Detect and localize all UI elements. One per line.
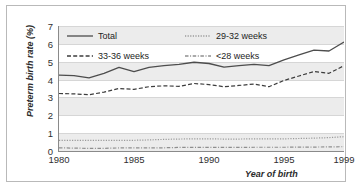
x-tick-label: 1995 <box>264 154 304 165</box>
legend-line-swatch <box>67 31 93 41</box>
series-line <box>59 147 344 149</box>
series-line <box>59 137 344 141</box>
legend-line-swatch <box>185 51 211 61</box>
y-tick-label: 6 <box>37 39 53 50</box>
legend-line-swatch <box>185 31 211 41</box>
legend-label: 33-36 weeks <box>98 51 149 61</box>
y-axis-line <box>58 26 59 152</box>
y-tick-label: 3 <box>37 92 53 103</box>
y-tick-label: 7 <box>37 21 53 32</box>
legend-item[interactable]: <28 weeks <box>185 50 259 62</box>
y-tick-label: 5 <box>37 57 53 68</box>
x-axis-line <box>58 151 344 152</box>
y-axis-title: Preterm birth rate (%) <box>25 11 35 131</box>
chart-frame: 01234567 19801985199019951999 Preterm bi… <box>6 5 346 182</box>
legend-item[interactable]: 29-32 weeks <box>185 30 267 42</box>
series-line <box>59 66 344 95</box>
x-tick-label: 1990 <box>189 154 229 165</box>
y-tick-label: 1 <box>37 128 53 139</box>
legend-label: 29-32 weeks <box>216 31 267 41</box>
legend-line-swatch <box>67 51 93 61</box>
y-tick-label: 2 <box>37 110 53 121</box>
legend-label: <28 weeks <box>216 51 259 61</box>
x-tick-label: 1980 <box>39 154 79 165</box>
legend-label: Total <box>98 31 117 41</box>
legend-item[interactable]: Total <box>67 30 117 42</box>
legend-item[interactable]: 33-36 weeks <box>67 50 149 62</box>
x-axis-title: Year of birth <box>245 169 298 179</box>
x-tick-label: 1985 <box>114 154 154 165</box>
y-tick-label: 4 <box>37 75 53 86</box>
x-tick-label: 1999 <box>324 154 359 165</box>
chart-legend: Total29-32 weeks33-36 weeks<28 weeks <box>67 30 297 64</box>
